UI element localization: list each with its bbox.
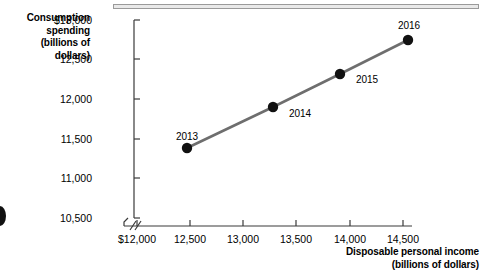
chart-figure: Consumption spending (billions of dollar… — [0, 0, 481, 273]
data-point-marker-2013[interactable] — [182, 143, 192, 153]
axis-break-hook — [124, 218, 128, 226]
consumption-function-line — [187, 40, 408, 148]
data-point-marker-2015[interactable] — [335, 69, 345, 79]
plot-area — [0, 0, 481, 273]
data-point-marker-2014[interactable] — [268, 102, 278, 112]
data-point-marker-2016[interactable] — [403, 35, 413, 45]
